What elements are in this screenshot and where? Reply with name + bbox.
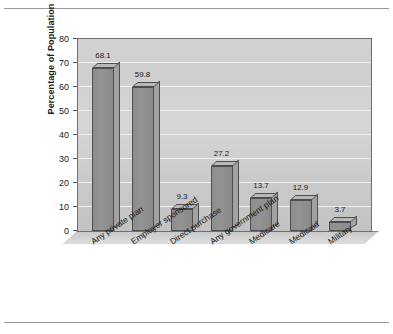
- gridline-60: [78, 86, 371, 87]
- gridline-50: [78, 110, 371, 111]
- bar-front-face: [211, 166, 233, 231]
- y-tick-label-60: 60: [47, 83, 69, 92]
- y-tick-label-70: 70: [47, 59, 69, 68]
- bar-front-face: [92, 68, 114, 231]
- gridline-40: [78, 134, 371, 135]
- page-rule-bottom: [4, 322, 389, 323]
- gridline-30: [78, 158, 371, 159]
- bar-value-label-5: 12.9: [281, 183, 321, 192]
- y-tick-label-80: 80: [47, 35, 69, 44]
- y-tick-label-30: 30: [47, 155, 69, 164]
- plot-area: 68.159.89.327.213.712.93.7: [77, 38, 372, 232]
- y-tick-label-40: 40: [47, 131, 69, 140]
- y-tick-label-0: 0: [47, 227, 69, 236]
- bar-chart-figure: Percentage of Population 80 70 60 50 40 …: [0, 10, 393, 322]
- page-rule-top: [4, 8, 389, 9]
- bar-value-label-6: 3.7: [320, 205, 360, 214]
- y-tick-label-50: 50: [47, 107, 69, 116]
- y-tick-label-20: 20: [47, 179, 69, 188]
- bar-value-label-1: 59.8: [123, 70, 163, 79]
- bar-value-label-3: 27.2: [202, 149, 242, 158]
- bar-value-label-0: 68.1: [83, 51, 123, 60]
- bar-side-face: [114, 61, 120, 228]
- y-tick-label-10: 10: [47, 203, 69, 212]
- bar-3[interactable]: [211, 166, 233, 231]
- bar-value-label-4: 13.7: [241, 181, 281, 190]
- gridline-70: [78, 62, 371, 63]
- bar-top-face: [211, 161, 239, 166]
- bar-0[interactable]: [92, 68, 114, 231]
- bar-side-face: [154, 81, 160, 228]
